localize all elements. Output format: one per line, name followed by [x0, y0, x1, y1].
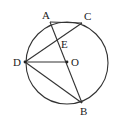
point-d-dot — [24, 61, 27, 64]
label-c: C — [84, 10, 91, 22]
label-a: A — [42, 9, 50, 21]
label-b: B — [80, 105, 87, 117]
segment-ac — [50, 22, 82, 23]
label-e: E — [61, 38, 68, 50]
label-d: D — [13, 56, 21, 68]
point-o-dot — [66, 61, 69, 64]
label-o: O — [71, 56, 79, 68]
geometry-diagram: A C E D O B — [0, 0, 116, 119]
